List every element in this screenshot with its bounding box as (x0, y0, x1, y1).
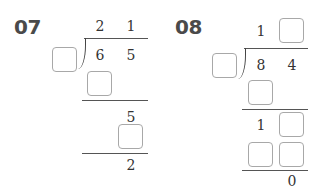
subtraction-line-2 (242, 170, 308, 171)
division-bracket (238, 48, 246, 79)
step2-product-ones-box[interactable] (118, 124, 143, 149)
step2-product-ones-box[interactable] (279, 142, 304, 167)
division-bar (244, 48, 308, 49)
step2-product-tens-box[interactable] (248, 142, 273, 167)
problem-number: 08 (175, 17, 202, 37)
division-bracket (78, 38, 86, 69)
quotient-digit-tens: 2 (93, 18, 107, 34)
problem-number: 07 (14, 17, 41, 37)
dividend-digit-ones: 4 (285, 57, 299, 73)
step1-remainder-ones-box[interactable] (279, 112, 304, 137)
subtraction-line-1 (242, 109, 308, 110)
final-remainder: 2 (124, 157, 138, 173)
step1-remainder-tens: 1 (254, 117, 268, 133)
divisor-answer-box[interactable] (52, 47, 77, 72)
step1-remainder-ones: 5 (124, 109, 138, 125)
quotient-ones-box[interactable] (279, 18, 304, 43)
divisor-answer-box[interactable] (212, 53, 237, 78)
quotient-digit-ones: 1 (124, 18, 138, 34)
dividend-digit-tens: 6 (93, 47, 107, 63)
final-remainder: 0 (285, 173, 299, 189)
division-bar (84, 38, 148, 39)
subtraction-line-2 (82, 153, 148, 154)
quotient-digit-tens: 1 (254, 23, 268, 39)
subtraction-line-1 (82, 100, 148, 101)
dividend-digit-tens: 8 (254, 57, 268, 73)
step1-product-tens-box[interactable] (87, 71, 112, 96)
step1-product-tens-box[interactable] (248, 80, 273, 105)
dividend-digit-ones: 5 (124, 47, 138, 63)
